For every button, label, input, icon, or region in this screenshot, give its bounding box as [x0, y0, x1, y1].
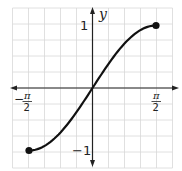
right-endpoint-dot: [152, 22, 159, 29]
x-axis-left-arrow-icon: [10, 86, 17, 91]
svg-text:π: π: [23, 90, 31, 101]
y-axis-label: y: [98, 6, 108, 22]
x-axis-right-arrow-icon: [172, 86, 179, 91]
x-tick-pi-over-2: π 2: [152, 90, 162, 113]
y-axis-bottom-arrow-icon: [90, 160, 95, 167]
left-endpoint-dot: [25, 147, 32, 154]
x-tick-neg-pi-over-2: − π 2: [14, 90, 32, 113]
y-tick-1: 1: [80, 18, 88, 33]
svg-text:2: 2: [153, 102, 159, 113]
svg-text:2: 2: [24, 102, 30, 113]
svg-text:π: π: [152, 90, 160, 101]
sine-graph: y 1 −1 − π 2 π 2: [0, 0, 182, 171]
y-tick-neg1: −1: [72, 143, 91, 158]
